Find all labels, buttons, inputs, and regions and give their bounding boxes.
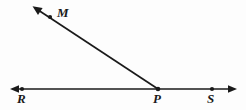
point-label-P: P — [153, 92, 161, 105]
point-label-S: S — [207, 92, 214, 105]
geometry-diagram: R P S M — [0, 0, 246, 110]
point-label-M: M — [57, 6, 69, 19]
point-label-R: R — [17, 92, 26, 105]
point-dot-M — [48, 15, 52, 19]
